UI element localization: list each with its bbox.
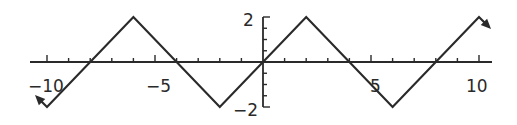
x-tick-label-neg10: −10 [28, 76, 64, 96]
x-tick-label-10: 10 [466, 76, 488, 96]
x-tick-label-5: 5 [370, 76, 381, 96]
y-tick-label-2: 2 [243, 10, 254, 30]
y-tick-label-neg2: −2 [233, 100, 258, 120]
x-tick-label-neg5: −5 [146, 76, 171, 96]
triangle-wave-chart: −10 −5 5 10 2 −2 [0, 0, 517, 125]
